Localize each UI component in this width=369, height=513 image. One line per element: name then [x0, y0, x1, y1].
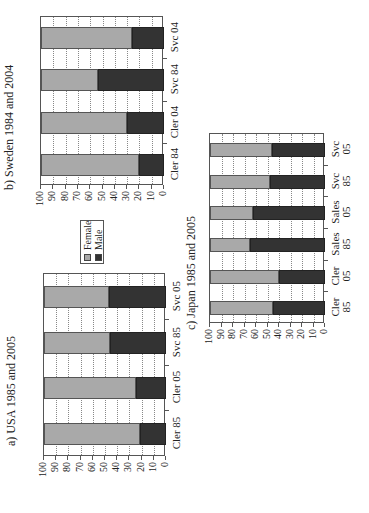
bar-segment-female: [41, 154, 139, 176]
axis-tick: [128, 456, 129, 460]
bar-segment-male: [253, 206, 325, 220]
bar-segment-female: [210, 301, 273, 315]
gridline: [233, 134, 234, 322]
axis-tick: [65, 185, 66, 189]
bar-segment-male: [132, 27, 164, 49]
axis-tick-label: 100: [35, 191, 45, 211]
bar-segment-male: [273, 301, 325, 315]
category-tick: [324, 196, 328, 197]
axis-tick: [52, 185, 53, 189]
chart-title: a) USA 1985 and 2005: [6, 336, 17, 446]
category-label: Svc 04: [169, 15, 180, 59]
axis-tick-label: 0: [160, 462, 170, 482]
axis-tick-label: 50: [99, 462, 109, 482]
axis-tick: [141, 456, 142, 460]
bar-segment-male: [109, 286, 166, 308]
stacked-bar: [44, 423, 166, 445]
axis-tick: [221, 323, 222, 327]
axis-tick: [244, 323, 245, 327]
axis-tick-label: 90: [50, 462, 60, 482]
bar-segment-female: [44, 286, 109, 308]
axis-tick: [267, 323, 268, 327]
stacked-bar: [44, 332, 166, 354]
stacked-bar: [41, 154, 164, 176]
axis-tick: [116, 456, 117, 460]
axis-tick: [209, 323, 210, 327]
axis-tick-label: 20: [136, 462, 146, 482]
chart-frame-sweden: [40, 16, 163, 185]
bar-segment-male: [110, 332, 166, 354]
bar-segment-male: [272, 143, 325, 157]
legend-label-female: Female: [83, 221, 93, 250]
legend-label-male: Male: [94, 229, 104, 250]
bar-segment-female: [210, 238, 250, 252]
axis-tick: [278, 323, 279, 327]
axis-tick-label: 100: [204, 329, 214, 349]
axis-tick-label: 80: [227, 329, 237, 349]
category-label: Cler 04: [169, 100, 180, 144]
gridline: [222, 134, 223, 322]
category-tick: [324, 291, 328, 292]
axis-tick: [163, 185, 164, 189]
category-label: Svc 85: [171, 320, 182, 364]
bar-segment-male: [270, 175, 325, 189]
axis-tick-label: 70: [75, 462, 85, 482]
category-tick: [165, 410, 169, 411]
female-swatch: [84, 254, 91, 261]
bar-segment-female: [44, 377, 136, 399]
axis-tick-label: 10: [308, 329, 318, 349]
stacked-bar: [210, 238, 325, 252]
axis-tick-label: 30: [121, 191, 131, 211]
bar-segment-male: [250, 238, 325, 252]
bar-segment-male: [127, 112, 164, 134]
stacked-bar: [210, 270, 325, 284]
gridline: [302, 134, 303, 322]
category-tick: [163, 143, 167, 144]
category-tick: [324, 260, 328, 261]
axis-tick-label: 60: [84, 191, 94, 211]
legend: FemaleMale: [80, 220, 104, 264]
bar-segment-male: [136, 377, 167, 399]
axis-tick-label: 50: [97, 191, 107, 211]
axis-tick: [77, 185, 78, 189]
category-tick: [163, 101, 167, 102]
bar-segment-male: [139, 154, 164, 176]
axis-tick: [104, 456, 105, 460]
gridline: [279, 134, 280, 322]
axis-tick-label: 100: [38, 462, 48, 482]
stacked-bar: [41, 27, 164, 49]
axis-tick: [151, 185, 152, 189]
chart-frame-usa: [43, 273, 165, 456]
axis-tick: [153, 456, 154, 460]
stacked-bar: [44, 286, 166, 308]
axis-tick: [301, 323, 302, 327]
category-label: Cler 84: [169, 142, 180, 186]
bar-segment-female: [41, 112, 127, 134]
chart-title: b) Sweden 1984 and 2004: [4, 65, 15, 190]
stacked-bar: [210, 143, 325, 157]
axis-tick-label: 90: [216, 329, 226, 349]
gridline: [291, 134, 292, 322]
axis-tick-label: 60: [250, 329, 260, 349]
category-tick: [324, 228, 328, 229]
category-label: Cler 85: [171, 411, 182, 455]
axis-tick: [55, 456, 56, 460]
gridline: [256, 134, 257, 322]
bar-segment-female: [41, 27, 132, 49]
gridline: [314, 134, 315, 322]
category-label: Svc 84: [169, 57, 180, 101]
axis-tick-label: 20: [133, 191, 143, 211]
axis-tick: [40, 185, 41, 189]
category-label: Svc 05: [330, 127, 352, 171]
axis-tick-label: 40: [111, 462, 121, 482]
axis-tick-label: 50: [262, 329, 272, 349]
gridline: [268, 134, 269, 322]
axis-tick-label: 0: [158, 191, 168, 211]
axis-tick: [126, 185, 127, 189]
axis-tick-label: 20: [296, 329, 306, 349]
axis-tick: [255, 323, 256, 327]
bar-segment-female: [44, 332, 110, 354]
axis-tick: [290, 323, 291, 327]
axis-tick: [43, 456, 44, 460]
category-tick: [163, 58, 167, 59]
